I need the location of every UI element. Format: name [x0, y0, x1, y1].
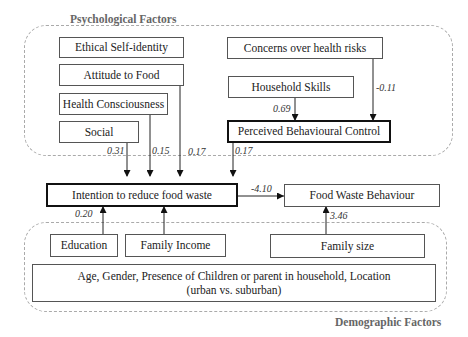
node-intention-to-reduce-food-waste: Intention to reduce food waste: [46, 183, 238, 207]
coef-education: 0.20: [75, 208, 93, 219]
node-attitude-to-food: Attitude to Food: [59, 64, 184, 86]
node-family-income: Family Income: [125, 234, 226, 257]
node-ethical-self-identity: Ethical Self-identity: [59, 37, 184, 58]
coef-social: 0.31: [107, 145, 125, 156]
node-other-demographics: Age, Gender, Presence of Children or par…: [32, 264, 436, 302]
node-social: Social: [59, 121, 139, 143]
node-perceived-behavioural-control: Perceived Behavioural Control: [227, 120, 391, 143]
coef-concerns-over-health-risks: -0.11: [376, 82, 396, 93]
node-food-waste-behaviour: Food Waste Behaviour: [284, 184, 440, 207]
node-concerns-over-health-risks: Concerns over health risks: [227, 37, 383, 59]
node-health-consciousness: Health Consciousness: [59, 93, 168, 115]
coef-perceived-behavioural-control: 0.17: [235, 145, 253, 156]
coef-health-consciousness: 0.15: [152, 145, 170, 156]
coef-family-size: 3.46: [330, 210, 348, 221]
coef-intention-to-behaviour: -4.10: [251, 183, 272, 194]
coef-attitude-to-food: 0.17: [188, 146, 206, 157]
node-education: Education: [50, 234, 118, 257]
coef-household-skills: 0.69: [273, 103, 291, 114]
node-household-skills: Household Skills: [228, 76, 354, 98]
node-family-size: Family size: [270, 234, 425, 258]
